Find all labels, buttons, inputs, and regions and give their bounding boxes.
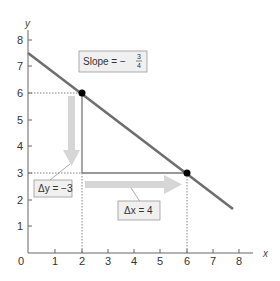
svg-text:Δy = −3: Δy = −3: [38, 183, 73, 194]
svg-text:6: 6: [184, 255, 190, 267]
svg-text:2: 2: [79, 255, 85, 267]
x-ticks: [55, 249, 239, 253]
y-ticks: [28, 40, 32, 226]
y-axis-label: y: [24, 18, 31, 29]
svg-text:3: 3: [105, 255, 111, 267]
svg-text:4: 4: [131, 255, 137, 267]
svg-text:5: 5: [157, 255, 163, 267]
x-tick-labels: 0 1 2 3 4 5 6 7 8: [18, 255, 242, 267]
svg-text:7: 7: [17, 60, 23, 72]
point-6-3: [184, 170, 191, 177]
svg-text:2: 2: [17, 194, 23, 206]
point-2-6: [79, 90, 86, 97]
svg-text:5: 5: [17, 114, 23, 126]
delta-y-leader: [50, 164, 70, 180]
svg-text:Slope = −: Slope = −: [83, 56, 126, 67]
svg-text:6: 6: [17, 87, 23, 99]
svg-text:Δx = 4: Δx = 4: [124, 205, 153, 216]
y-tick-labels: 1 2 3 4 5 6 7 8: [17, 34, 23, 232]
svg-text:7: 7: [210, 255, 216, 267]
svg-text:8: 8: [17, 34, 23, 46]
svg-text:4: 4: [137, 62, 141, 69]
delta-y-arrow: [63, 96, 80, 166]
svg-text:4: 4: [17, 140, 23, 152]
svg-text:1: 1: [52, 255, 58, 267]
svg-text:0: 0: [18, 255, 24, 267]
svg-text:1: 1: [17, 220, 23, 232]
svg-text:8: 8: [236, 255, 242, 267]
svg-text:3: 3: [137, 53, 141, 60]
slope-chart: 1 2 3 4 5 6 7 8 0 1 2 3 4 5 6 7 8 y x S: [0, 0, 280, 281]
delta-x-label: Δx = 4: [118, 201, 160, 220]
delta-y-label: Δy = −3: [34, 180, 73, 197]
svg-text:3: 3: [17, 167, 23, 179]
x-axis-label: x: [262, 248, 269, 259]
slope-label: Slope = − 3 4: [79, 51, 147, 72]
